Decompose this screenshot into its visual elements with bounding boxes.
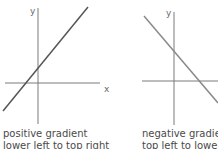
negative-gradient-caption: negative gradient top left to lower righ… [142,128,218,149]
negative-gradient-line [144,16,218,103]
y-axis-label: y [166,8,172,18]
y-axis-label: y [30,6,36,16]
caption-line-1: positive gradient [3,128,109,140]
positive-gradient-caption: positive gradient lower left to top righ… [3,128,109,149]
x-axis-label: x [104,84,110,94]
positive-gradient-line [3,7,88,111]
caption-line-1: negative gradient [142,128,218,140]
positive-gradient-graph: y x y [0,0,218,149]
caption-line-2: top left to lower right [142,140,218,149]
caption-line-2: lower left to top right [3,140,109,149]
